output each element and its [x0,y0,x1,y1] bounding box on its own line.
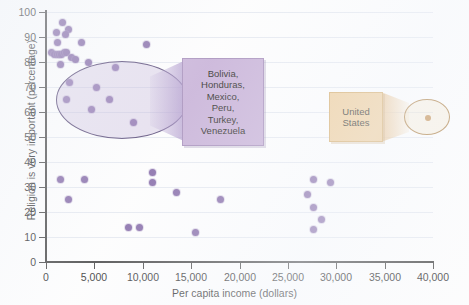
cluster-callout-label: Bolivia, Honduras, Mexico, Peru, Turkey,… [201,68,245,137]
y-axis-tick [39,262,46,263]
data-point [54,39,61,46]
y-axis-tick [39,62,46,63]
x-axis-title: Per capita income (dollars) [0,287,469,299]
y-axis-tick [39,37,46,38]
data-point [192,229,199,236]
y-axis-tick [39,87,46,88]
us-data-point [425,115,431,121]
y-axis-tick [39,112,46,113]
data-point [136,224,143,231]
y-axis-tick-label: 100 [2,7,36,18]
data-point [173,189,180,196]
cluster-callout-box: Bolivia, Honduras, Mexico, Peru, Turkey,… [182,58,264,146]
data-point [217,196,224,203]
us-callout-label: United States [342,106,369,129]
data-point [149,169,156,176]
x-axis-tick [46,262,47,269]
data-point [65,196,72,203]
gridline [46,162,433,163]
data-point [53,29,60,36]
y-axis-title: Religion is very important (percentage) [25,20,37,240]
y-axis-tick-label: 0 [2,257,36,268]
x-axis-tick [433,262,434,269]
gridline [46,37,433,38]
x-axis-tick [191,262,192,269]
data-point [57,176,64,183]
y-axis-tick [39,162,46,163]
gridline [46,237,433,238]
y-axis-tick [39,187,46,188]
x-axis-tick [336,262,337,269]
y-axis-tick [39,237,46,238]
data-point [62,31,69,38]
gridline [46,212,433,213]
us-highlight-ellipse [404,99,450,135]
x-axis-tick [94,262,95,269]
data-point [149,179,156,186]
data-point [57,61,64,68]
data-point [304,191,311,198]
data-point [78,39,85,46]
data-point [327,179,334,186]
gridline [46,12,433,13]
y-axis-tick [39,212,46,213]
data-point [59,19,66,26]
scatter-chart: 0102030405060708090100 05,00010,00015,00… [0,0,469,305]
data-point [125,224,132,231]
x-axis-tick [385,262,386,269]
x-axis-tick [143,262,144,269]
y-axis-tick [39,12,46,13]
x-axis-tick-label: 40,000 [403,272,463,283]
y-axis-tick [39,137,46,138]
us-callout-box: United States [329,92,383,142]
gridline [46,187,433,188]
x-axis-tick [240,262,241,269]
x-axis-tick [288,262,289,269]
